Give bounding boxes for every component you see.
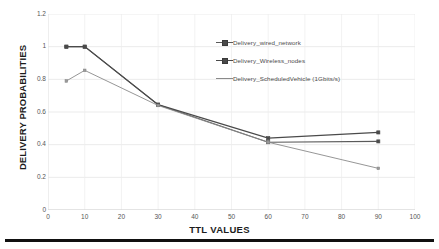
legend-label: Delivery_Wireless_nodes — [233, 57, 305, 64]
x-tick-label: 40 — [183, 214, 207, 221]
data-point-marker — [377, 131, 380, 134]
legend-label: Delivery_ScheduledVehicle (1Gbits/s) — [233, 75, 340, 82]
y-tick-label: 0.2 — [24, 174, 46, 181]
x-tick-label: 10 — [73, 214, 97, 221]
y-tick-label: 0.4 — [24, 141, 46, 148]
y-tick-label: 1 — [24, 43, 46, 50]
legend-marker-icon — [216, 37, 233, 47]
x-tick-label: 0 — [36, 214, 60, 221]
x-tick-label: 60 — [256, 214, 280, 221]
data-point-marker — [267, 137, 270, 140]
x-tick-label: 80 — [330, 214, 354, 221]
y-axis-tick-labels: 00.20.40.60.811.2 — [20, 14, 46, 210]
legend-item[interactable]: Delivery_ScheduledVehicle (1Gbits/s) — [216, 69, 406, 87]
x-axis-tick-labels: 0102030405060708090100 — [48, 214, 415, 224]
x-tick-label: 70 — [293, 214, 317, 221]
data-point-marker — [83, 45, 86, 48]
y-tick-label: 0.8 — [24, 76, 46, 83]
y-tick-label: 0.6 — [24, 109, 46, 116]
data-point-marker — [267, 141, 270, 144]
x-tick-label: 90 — [366, 214, 390, 221]
x-tick-label: 50 — [220, 214, 244, 221]
chart-legend: Delivery_wired_networkDelivery_Wireless_… — [216, 33, 406, 87]
legend-marker-icon — [216, 55, 233, 65]
data-point-marker — [157, 104, 160, 107]
chart-figure: DELIVERY PROBABILITIES 00.20.40.60.811.2… — [0, 0, 439, 249]
legend-label: Delivery_wired_network — [233, 39, 301, 46]
legend-item[interactable]: Delivery_wired_network — [216, 33, 406, 51]
x-axis-title: TTL VALUES — [0, 224, 439, 235]
x-tick-label: 30 — [146, 214, 170, 221]
legend-marker-icon — [216, 73, 233, 83]
y-tick-label: 0 — [24, 207, 46, 214]
data-point-marker — [65, 80, 68, 83]
data-point-marker — [377, 140, 380, 143]
data-point-marker — [83, 69, 86, 72]
x-tick-label: 100 — [403, 214, 427, 221]
data-point-marker — [65, 45, 68, 48]
x-tick-label: 20 — [109, 214, 133, 221]
y-tick-label: 1.2 — [24, 11, 46, 18]
bottom-divider — [5, 239, 434, 242]
data-point-marker — [377, 167, 380, 170]
legend-item[interactable]: Delivery_Wireless_nodes — [216, 51, 406, 69]
